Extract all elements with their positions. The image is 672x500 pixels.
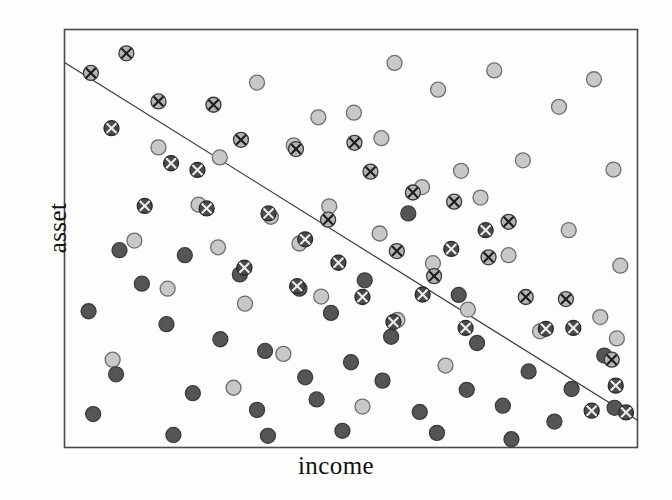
data-points-layer [81,46,633,447]
light-circle [127,233,142,248]
light-circle [226,380,241,395]
dark-circle [357,273,372,288]
dark-circle [401,206,416,221]
dark-circle-cross [137,198,152,213]
light-circle-cross [119,46,134,61]
light-circle-cross [389,244,404,259]
light-circle [473,190,488,205]
light-circle [355,399,370,414]
dark-circle [260,428,275,443]
dark-circle-cross [386,315,401,330]
light-circle-cross [501,214,516,229]
dark-circle-cross [415,287,430,302]
dark-circle [166,427,181,442]
dark-circle [375,373,390,388]
light-circle [212,150,227,165]
dark-circle-cross [261,206,276,221]
light-circle-cross [288,142,303,157]
light-circle [237,296,252,311]
light-circle [314,289,329,304]
light-circle [431,82,446,97]
dark-circle-cross [298,232,313,247]
light-circle [438,358,453,373]
dark-circle-cross [584,403,599,418]
light-circle [487,63,502,78]
light-circle [561,223,576,238]
light-circle [609,331,624,346]
light-circle [250,75,265,90]
dark-circle [81,304,96,319]
dark-circle-cross [566,320,581,335]
light-circle-cross [427,269,442,284]
light-circle-cross [481,250,496,265]
light-circle-cross [233,132,248,147]
dark-circle [344,355,359,370]
dark-circle [213,332,228,347]
dark-circle [134,276,149,291]
dark-circle [521,364,536,379]
dark-circle [412,404,427,419]
dark-circle [459,382,474,397]
dark-circle-cross [355,290,370,305]
light-circle [105,352,120,367]
dark-circle-cross [199,201,214,216]
light-circle [374,131,389,146]
light-circle [160,281,175,296]
light-circle [151,140,166,155]
light-circle [276,346,291,361]
light-circle [387,55,402,70]
dark-circle-cross [164,156,179,171]
light-circle [311,110,326,125]
dark-circle-cross [608,378,623,393]
light-circle [372,226,387,241]
light-circle [586,72,601,87]
light-circle-cross [206,97,221,112]
light-circle-cross [321,212,336,227]
dark-circle [547,414,562,429]
light-circle [606,162,621,177]
light-circle [346,105,361,120]
dark-circle-cross [444,241,459,256]
light-circle-cross [347,135,362,150]
light-circle-cross [151,94,166,109]
dark-circle [258,343,273,358]
dark-circle [159,317,174,332]
light-circle-cross [363,164,378,179]
plot-canvas [0,0,672,500]
dark-circle [109,367,124,382]
scatter-plot-figure: income asset [0,0,672,500]
dark-circle [185,386,200,401]
dark-circle-cross [190,162,205,177]
dark-circle [495,398,510,413]
dark-circle [504,432,519,447]
dark-circle [177,248,192,263]
dark-circle-cross [538,321,553,336]
light-circle [613,258,628,273]
dark-circle [250,402,265,417]
dark-circle [298,370,313,385]
light-circle [460,302,475,317]
light-circle-cross [558,292,573,307]
light-circle [551,99,566,114]
dark-circle [86,407,101,422]
dark-circle-cross [290,279,305,294]
light-circle [322,199,337,214]
light-circle-cross [83,65,98,80]
dark-circle [384,329,399,344]
plot-frame [65,30,638,448]
dark-circle [470,336,485,351]
dark-circle [451,287,466,302]
y-axis-label: asset [44,168,72,288]
x-axis-label: income [0,452,672,480]
light-circle [211,240,226,255]
light-circle-cross [447,194,462,209]
dark-circle [429,425,444,440]
dark-circle-cross [331,255,346,270]
dark-circle [564,381,579,396]
dark-circle [309,392,324,407]
dark-circle [112,243,127,258]
light-circle [501,248,516,263]
dark-circle-cross [619,405,634,420]
light-circle-cross [604,352,619,367]
dark-circle-cross [104,121,119,136]
